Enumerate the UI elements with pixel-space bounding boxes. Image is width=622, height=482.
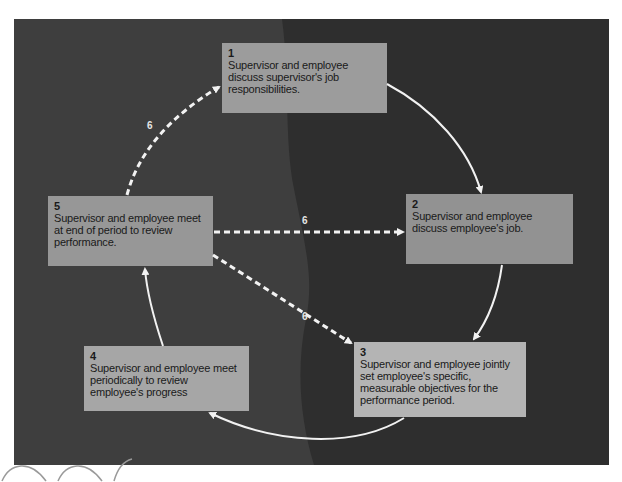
step-box-3: 3 Supervisor and employee jointly set em… (354, 342, 526, 417)
step-number: 2 (412, 199, 567, 210)
step-box-2: 2 Supervisor and employee discuss employ… (406, 194, 573, 264)
step-box-1: 1 Supervisor and employee discuss superv… (222, 43, 387, 113)
decorative-curves (0, 455, 140, 482)
step-number: 1 (228, 48, 381, 59)
dashed-label-5-to-3: 6 (302, 311, 308, 322)
step-box-4: 4 Supervisor and employee meet periodica… (84, 346, 249, 411)
step-number: 5 (54, 201, 207, 212)
dashed-label-5-to-1: 6 (147, 120, 153, 131)
step-number: 4 (90, 351, 243, 362)
dashed-label-5-to-2: 6 (302, 215, 308, 226)
step-box-5: 5 Supervisor and employee meet at end of… (48, 196, 213, 266)
step-number: 3 (360, 347, 520, 358)
step-text: Supervisor and employee discuss supervis… (228, 59, 381, 95)
diagram-panel: 1 Supervisor and employee discuss superv… (14, 19, 609, 465)
step-text: Supervisor and employee meet periodicall… (90, 362, 243, 398)
step-text: Supervisor and employee meet at end of p… (54, 212, 207, 248)
step-text: Supervisor and employee discuss employee… (412, 210, 567, 234)
step-text: Supervisor and employee jointly set empl… (360, 358, 520, 406)
